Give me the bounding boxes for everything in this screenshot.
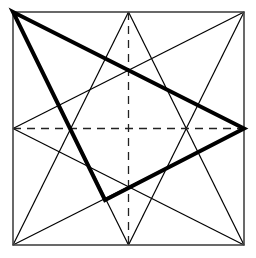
geometry-diagram: [0, 0, 256, 258]
